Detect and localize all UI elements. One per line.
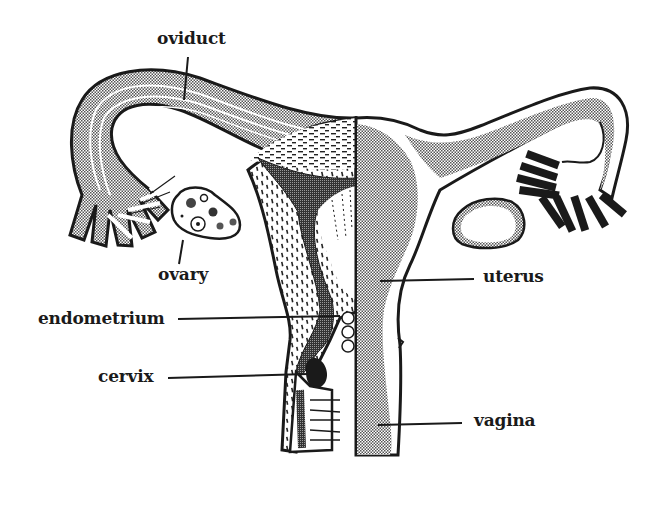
right-ovary (453, 199, 524, 248)
label-cervix: cervix (98, 366, 153, 386)
leader-ovary (179, 240, 183, 264)
label-endometrium: endometrium (38, 308, 165, 328)
left-uterus-wall (248, 118, 356, 452)
left-ovary (172, 188, 240, 239)
label-oviduct: oviduct (157, 28, 226, 48)
label-vagina: vagina (474, 410, 535, 430)
label-ovary: ovary (158, 264, 208, 284)
reproductive-system-diagram (0, 0, 664, 509)
label-uterus: uterus (483, 266, 544, 286)
